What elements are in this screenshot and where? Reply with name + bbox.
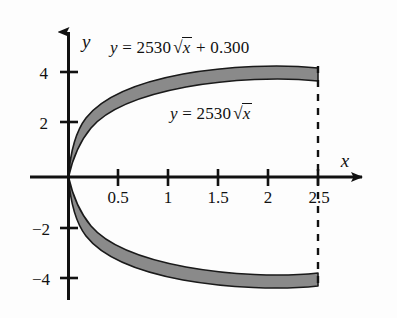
y-tick-label-0: 4 [40,64,49,83]
figure-container: 0.5 1 1.5 2 2.5 4 2 −2 −4 y x y = 2530√x… [0,0,397,318]
lower-formula-radicand: x [242,103,252,123]
lower-formula-lhs: y [170,104,178,123]
x-tick-label-0: 0.5 [107,188,128,207]
upper-formula-lhs: y [110,38,118,57]
x-tick-label-1: 1 [164,188,173,207]
upper-formula-equals: = [122,38,132,57]
annotation-upper-formula: y = 2530√x + 0.300 [110,38,250,58]
band-lower-branch [69,177,319,288]
x-tick-label-3: 2 [264,188,273,207]
upper-formula-plus: + [196,38,206,57]
lower-formula-radical: √x [231,104,251,124]
annotation-lower-formula: y = 2530√x [170,104,252,124]
upper-formula-radicand: x [182,37,192,57]
lower-formula-equals: = [182,104,192,123]
y-axis-label: y [80,31,91,52]
upper-formula-coefficient: 2530 [136,38,171,57]
x-tick-label-2: 1.5 [207,188,228,207]
upper-formula-radical: √x [171,38,191,58]
y-tick-label-3: −4 [32,270,51,289]
y-tick-label-2: −2 [32,220,50,239]
x-axis-label: x [340,150,350,171]
x-tick-label-4: 2.5 [308,188,329,207]
lower-formula-coefficient: 2530 [196,104,231,123]
upper-formula-offset: 0.300 [210,38,249,57]
y-tick-label-1: 2 [40,114,49,133]
